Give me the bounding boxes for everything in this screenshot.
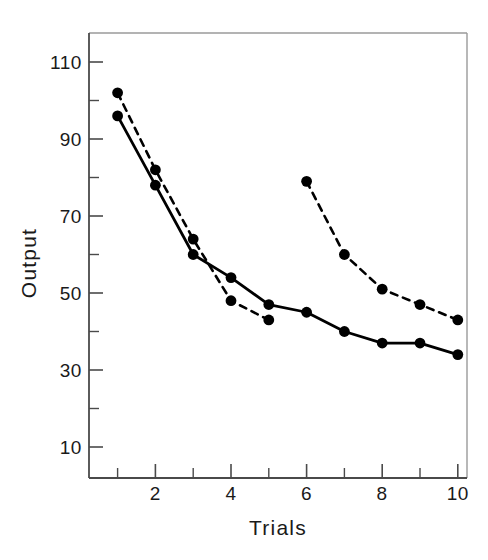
y-tick-label-30: 30 — [60, 360, 82, 381]
data-point-marker — [263, 299, 274, 310]
y-tick-label-70: 70 — [60, 206, 82, 227]
data-point-marker — [339, 249, 350, 260]
line-chart: 110 90 70 50 30 10 2 4 6 8 10 — [0, 0, 488, 560]
y-tick-label-10: 10 — [60, 437, 82, 458]
x-tick-label-10: 10 — [447, 483, 469, 504]
data-point-marker — [301, 176, 312, 187]
y-tick-label-110: 110 — [50, 52, 82, 73]
data-point-marker — [377, 284, 388, 295]
y-tick-label-50: 50 — [60, 283, 82, 304]
data-point-marker — [377, 338, 388, 349]
data-point-marker — [415, 299, 426, 310]
data-point-marker — [112, 87, 123, 98]
data-point-marker — [150, 164, 161, 175]
chart-background — [0, 0, 488, 560]
y-axis-title: Output — [17, 228, 40, 298]
data-point-marker — [226, 272, 237, 283]
data-point-marker — [452, 349, 463, 360]
data-point-marker — [263, 315, 274, 326]
x-tick-label-8: 8 — [377, 483, 388, 504]
data-point-marker — [150, 180, 161, 191]
x-tick-label-4: 4 — [225, 483, 236, 504]
data-point-marker — [226, 295, 237, 306]
x-axis-title: Trials — [249, 516, 307, 539]
data-point-marker — [339, 326, 350, 337]
x-tick-label-2: 2 — [150, 483, 161, 504]
data-point-marker — [415, 338, 426, 349]
y-tick-label-90: 90 — [60, 129, 82, 150]
data-point-marker — [452, 315, 463, 326]
data-point-marker — [188, 234, 199, 245]
data-point-marker — [112, 111, 123, 122]
chart-figure: 110 90 70 50 30 10 2 4 6 8 10 — [0, 0, 488, 560]
data-point-marker — [301, 307, 312, 318]
x-tick-label-6: 6 — [301, 483, 312, 504]
data-point-marker — [188, 249, 199, 260]
